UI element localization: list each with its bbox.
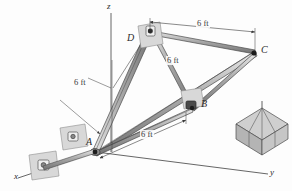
point-label-a: A — [86, 137, 92, 147]
diagram-svg — [0, 0, 292, 191]
axis-label-x: x — [14, 172, 18, 181]
point-label-b: B — [201, 99, 207, 109]
structural-members — [93, 27, 257, 156]
axis-label-y: y — [270, 168, 274, 177]
figure-canvas: z x y A B C D 6 ft 6 ft 6 ft 6 ft — [0, 0, 292, 191]
dimension-z-height: 6 ft — [73, 78, 87, 87]
point-label-d: D — [127, 33, 134, 43]
suspended-crate — [236, 101, 288, 155]
dimension-a-to-b: 6 ft — [140, 130, 154, 139]
dimension-d-diagonal: 6 ft — [166, 56, 180, 65]
point-label-c: C — [261, 45, 268, 55]
dimension-d-to-c: 6 ft — [196, 19, 210, 28]
axis-label-z: z — [107, 2, 111, 11]
